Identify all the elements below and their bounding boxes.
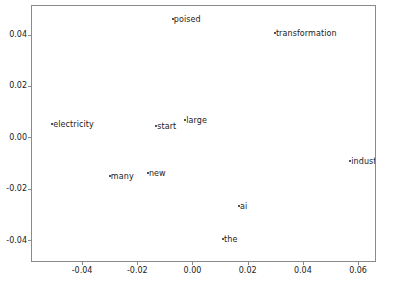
x-axis-tick-mark bbox=[358, 262, 359, 265]
y-axis-tick-label: 0.00 bbox=[0, 133, 31, 142]
data-point-label: new bbox=[149, 169, 166, 178]
y-axis-tick-label: 0.04 bbox=[0, 30, 31, 39]
y-axis-tick-label: -0.04 bbox=[0, 236, 31, 245]
y-axis-tick-label: 0.02 bbox=[0, 81, 31, 90]
x-axis-tick-label: -0.02 bbox=[127, 266, 148, 275]
x-axis-tick-label: 0.04 bbox=[294, 266, 312, 275]
x-axis-tick-mark bbox=[137, 262, 138, 265]
data-point-label: transformation bbox=[276, 29, 337, 38]
data-point-label: poised bbox=[174, 15, 201, 24]
x-axis-tick-mark bbox=[248, 262, 249, 265]
data-point-label: ai bbox=[240, 202, 247, 211]
data-point-label: large bbox=[186, 116, 207, 125]
data-point-label: electricity bbox=[53, 120, 94, 129]
data-point-label: start bbox=[157, 122, 176, 131]
x-axis-tick-label: 0.06 bbox=[349, 266, 367, 275]
x-axis-tick-label: 0.02 bbox=[239, 266, 257, 275]
x-axis-tick-label: 0.00 bbox=[184, 266, 202, 275]
data-point-label: the bbox=[224, 235, 237, 244]
x-axis-tick-label: -0.04 bbox=[72, 266, 93, 275]
x-axis-tick-mark bbox=[192, 262, 193, 265]
data-point-label: many bbox=[111, 172, 134, 181]
y-axis-tick-label: -0.02 bbox=[0, 184, 31, 193]
x-axis-tick-mark bbox=[82, 262, 83, 265]
data-point-label: industries bbox=[351, 157, 376, 166]
scatter-plot-figure: 0.040.020.00-0.02-0.04 -0.04-0.020.000.0… bbox=[0, 0, 394, 289]
x-axis-tick-mark bbox=[303, 262, 304, 265]
plot-area: poisedtransformationelectricitystartlarg… bbox=[31, 5, 376, 262]
